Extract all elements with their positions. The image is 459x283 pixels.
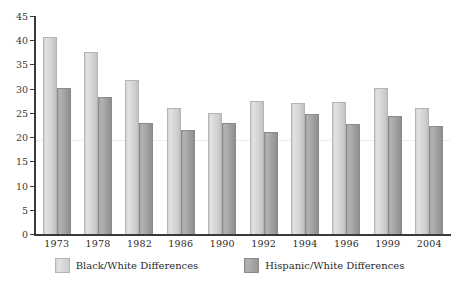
y-tick-label: 45 [16,11,28,22]
bar-group [415,16,443,234]
bar [222,123,236,234]
x-axis [34,234,451,236]
legend-item[interactable]: Black/White Differences [55,258,199,273]
y-tick-label: 0 [22,229,28,240]
y-tick-mark [30,234,34,235]
y-tick-mark [30,113,34,114]
y-tick-label: 25 [16,107,28,118]
legend-label: Hispanic/White Differences [265,260,404,271]
x-tick-label: 1994 [285,238,325,249]
bar [332,102,346,234]
legend-swatch-icon [55,258,70,273]
legend-label: Black/White Differences [76,260,199,271]
bar [208,113,222,234]
bar [415,108,429,234]
bar-group [84,16,112,234]
bar-group [43,16,71,234]
bar [139,123,153,234]
legend-item[interactable]: Hispanic/White Differences [244,258,404,273]
y-tick-mark [30,137,34,138]
bar [181,130,195,234]
bar-chart: 051015202530354045 197319781982198619901… [0,0,459,283]
bar [250,101,264,234]
bar-group [250,16,278,234]
bar [305,114,319,234]
x-tick-label: 2004 [409,238,449,249]
y-tick-mark [30,64,34,65]
y-tick-label: 40 [16,35,28,46]
legend-swatch-icon [244,258,259,273]
x-tick-label: 1973 [37,238,77,249]
bar [167,108,181,234]
x-tick-label: 1990 [202,238,242,249]
bar [264,132,278,234]
bar [388,116,402,234]
bar [57,88,71,234]
y-tick-mark [30,16,34,17]
y-tick-mark [30,210,34,211]
y-tick-label: 10 [16,180,28,191]
chart-legend: Black/White DifferencesHispanic/White Di… [0,258,459,273]
y-tick-mark [30,161,34,162]
bar-group [332,16,360,234]
x-tick-label: 1986 [161,238,201,249]
y-tick-mark [30,40,34,41]
bar [43,37,57,234]
y-tick-mark [30,89,34,90]
y-tick-label: 20 [16,132,28,143]
bar [291,103,305,234]
bar [346,124,360,234]
x-tick-label: 1992 [244,238,284,249]
bar [125,80,139,234]
bar-group [291,16,319,234]
y-tick-label: 5 [22,204,28,215]
y-tick-label: 35 [16,59,28,70]
bar-group [125,16,153,234]
bar-group [167,16,195,234]
x-axis-labels: 1973197819821986199019921994199619992004 [36,238,450,249]
x-tick-label: 1982 [119,238,159,249]
bar-groups [36,16,450,234]
x-tick-label: 1996 [326,238,366,249]
bar [374,88,388,234]
y-tick-label: 15 [16,156,28,167]
bar-group [374,16,402,234]
bar [84,52,98,234]
bar [429,126,443,234]
y-tick-label: 30 [16,83,28,94]
bar [98,97,112,234]
x-tick-label: 1978 [78,238,118,249]
x-tick-label: 1999 [368,238,408,249]
y-tick-mark [30,186,34,187]
bar-group [208,16,236,234]
